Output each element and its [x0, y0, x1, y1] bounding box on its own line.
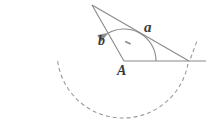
label-side-b: b: [98, 34, 105, 48]
dashed-arc-upper-stub: [191, 42, 197, 59]
label-vertex-A: A: [117, 64, 126, 78]
figure-canvas: [0, 0, 212, 121]
label-side-a: a: [144, 20, 152, 35]
geometry-figure: a b A: [0, 0, 212, 121]
arc-tick-mark: [125, 42, 130, 44]
